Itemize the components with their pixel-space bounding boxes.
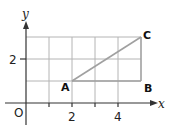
y-axis-label: y [21, 7, 29, 21]
x-tick-label-4: 4 [114, 110, 122, 124]
grid [26, 37, 141, 103]
coordinate-diagram: y x O 2 2 4 A B C [0, 0, 171, 134]
point-b-label: B [144, 82, 152, 95]
x-axis-label: x [158, 97, 165, 111]
x-axis-arrow-icon [150, 100, 158, 106]
axes [5, 24, 155, 125]
point-c-label: C [143, 29, 151, 42]
origin-label: O [14, 106, 23, 120]
y-axis-arrow-icon [23, 21, 29, 29]
y-tick-label-2: 2 [9, 53, 17, 67]
x-tick-label-2: 2 [68, 110, 76, 124]
point-a-label: A [61, 81, 70, 94]
